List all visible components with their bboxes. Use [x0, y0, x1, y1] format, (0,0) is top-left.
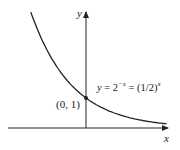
x-axis-label: x — [164, 133, 169, 144]
equation-label: y = 2−x = (1/2)x — [97, 81, 161, 93]
eq-exp2: x — [158, 80, 161, 88]
eq-part2: = (1/2) — [126, 82, 158, 93]
point-0-1-marker — [84, 96, 88, 100]
y-axis-label: y — [77, 8, 82, 19]
curve-2-pow-neg-x — [31, 12, 167, 124]
exponential-decay-plot — [0, 0, 180, 150]
eq-part1: = 2 — [102, 82, 118, 93]
eq-exp1: −x — [118, 80, 126, 88]
point-label: (0, 1) — [56, 99, 80, 110]
